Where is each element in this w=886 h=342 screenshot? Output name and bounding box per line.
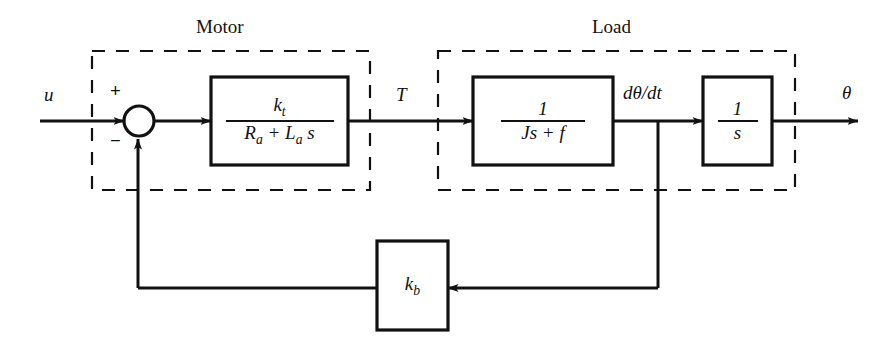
summer-minus-sign: −: [110, 130, 121, 152]
integrator-numerator: 1: [727, 99, 749, 120]
motor-transfer-block-label: kt Ra + La s: [211, 77, 348, 165]
load-inertia-block-label: 1 Js + f: [473, 77, 613, 165]
block-diagram-canvas: Motor Load u T dθ/dt θ + − kt Ra + La s …: [0, 0, 886, 342]
integrator-denominator: s: [728, 122, 747, 143]
integrator-block-label: 1 s: [703, 77, 772, 165]
signal-label-velocity: dθ/dt: [623, 82, 662, 104]
load-block-numerator: 1: [532, 99, 554, 120]
motor-group-title: Motor: [196, 16, 244, 38]
summer-plus-sign: +: [110, 80, 121, 102]
load-group-title: Load: [592, 16, 631, 38]
motor-block-numerator: kt: [267, 95, 291, 120]
back-emf-block-label: kb: [377, 241, 448, 330]
branch-node-velocity: [658, 121, 659, 122]
signal-label-output-theta: θ: [842, 82, 851, 104]
motor-block-denominator: Ra + La s: [238, 122, 320, 147]
signal-label-input-u: u: [44, 84, 54, 106]
signal-label-torque: T: [396, 84, 407, 106]
load-block-denominator: Js + f: [515, 122, 570, 143]
back-emf-gain-text: kb: [405, 273, 420, 299]
summing-junction: [124, 106, 154, 136]
